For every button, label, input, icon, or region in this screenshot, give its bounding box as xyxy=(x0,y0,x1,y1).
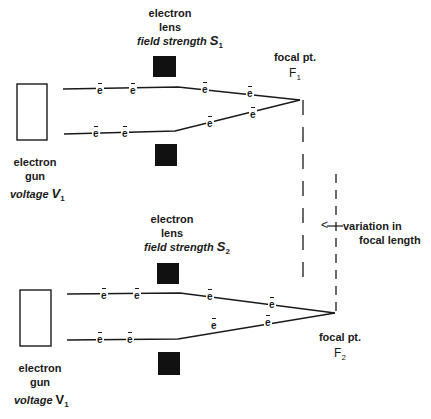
lens-label-line: electron xyxy=(130,6,210,20)
electron-glyph: e xyxy=(96,86,104,96)
focal-symbol: F1 xyxy=(265,66,325,85)
electron-glyph: e xyxy=(206,292,214,302)
lens-pole-bottom-upper xyxy=(157,263,179,284)
gun-label-line: electron xyxy=(14,361,66,375)
gun-label-line: gun xyxy=(10,169,60,183)
electron-glyph: e xyxy=(121,129,129,139)
bottom-focal-label: focal pt. F2 xyxy=(310,330,370,365)
gun-label-line: gun xyxy=(14,375,66,389)
variation-focal-length-label: variation in focal length xyxy=(343,219,421,247)
bottom-lens-field-strength: field strength S2 xyxy=(132,240,242,259)
bottom-gun-label: electron gun xyxy=(14,361,66,389)
gun-label-line: electron xyxy=(10,155,60,169)
lens-label-line: lens xyxy=(132,226,212,240)
electron-glyph: e xyxy=(201,85,209,95)
electron-glyph: e xyxy=(133,291,141,301)
top-focal-label: focal pt. F1 xyxy=(265,50,325,85)
electron-glyph: e xyxy=(264,318,272,328)
electron-glyph: e xyxy=(246,89,254,99)
top-lens-field-strength: field strength S1 xyxy=(125,34,235,53)
top-lens-label: electron lens xyxy=(130,6,210,34)
lens-pole-top-upper xyxy=(153,56,176,77)
electron-gun-bottom xyxy=(20,290,51,346)
electron-glyph: e xyxy=(92,129,100,139)
electron-glyph: e xyxy=(210,321,218,331)
variation-label-line: focal length xyxy=(343,233,421,247)
focal-label-text: focal pt. xyxy=(265,50,325,64)
electron-glyph: e xyxy=(129,86,137,96)
electron-glyph: e xyxy=(126,335,134,345)
focal-symbol: F2 xyxy=(310,346,370,365)
electron-glyph: e xyxy=(268,300,276,310)
field-strength-text: field strength xyxy=(137,35,210,47)
lens-label-line: lens xyxy=(130,20,210,34)
bottom-lens-label: electron lens xyxy=(132,212,212,240)
electron-glyph: e xyxy=(100,291,108,301)
variation-label-line: variation in xyxy=(343,219,421,233)
electron-glyph: e xyxy=(249,110,257,120)
field-strength-subscript: 1 xyxy=(218,41,222,50)
lens-pole-top-lower xyxy=(155,144,177,166)
electron-glyph: e xyxy=(96,335,104,345)
top-gun-label: electron gun xyxy=(10,155,60,183)
electron-glyph: e xyxy=(206,119,214,129)
lens-label-line: electron xyxy=(132,212,212,226)
electron-gun-top xyxy=(17,84,47,140)
beam-bottom-lower xyxy=(67,313,335,340)
focal-label-text: focal pt. xyxy=(310,330,370,344)
variation-arrowhead-icon: < xyxy=(321,218,328,232)
top-gun-voltage: voltage V1 xyxy=(10,187,75,206)
lens-pole-bottom-lower xyxy=(158,352,180,375)
bottom-gun-voltage: voltage V1 xyxy=(14,393,84,412)
